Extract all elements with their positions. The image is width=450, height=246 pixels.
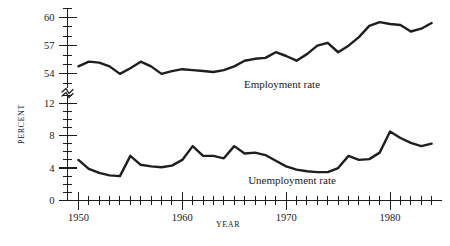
chart-canvas: 54576004812 1950196019701980 Employment … (0, 0, 450, 246)
series-annotation-unemployment-rate: Unemployment rate (248, 174, 336, 186)
series-annotation-employment-rate: Employment rate (244, 78, 320, 90)
y-axis-tick-label: 12 (44, 98, 55, 109)
y-axis-tick-label: 0 (49, 195, 54, 206)
y-axis-break-icon (62, 89, 73, 94)
x-axis-title: YEAR (216, 220, 240, 229)
chart-figure: 54576004812 1950196019701980 Employment … (0, 0, 450, 246)
x-axis-tick-label: 1980 (380, 212, 401, 223)
series-line-unemployment-rate (78, 132, 431, 177)
y-axis-tick-label: 54 (44, 68, 55, 79)
y-axis-tick-label: 57 (44, 40, 55, 51)
y-axis-tick-label: 60 (44, 12, 55, 23)
x-axis-tick-label: 1960 (172, 212, 193, 223)
y-axis (62, 8, 73, 201)
y-axis-tick-labels: 54576004812 (44, 12, 55, 206)
series-line-employment-rate (78, 22, 431, 74)
y-axis-tick-label: 8 (49, 130, 54, 141)
y-axis-tick-label: 4 (49, 163, 55, 174)
x-axis-tick-label: 1970 (276, 212, 297, 223)
y-axis-title: PERCENT (17, 104, 26, 144)
x-axis-tick-label: 1950 (68, 212, 89, 223)
